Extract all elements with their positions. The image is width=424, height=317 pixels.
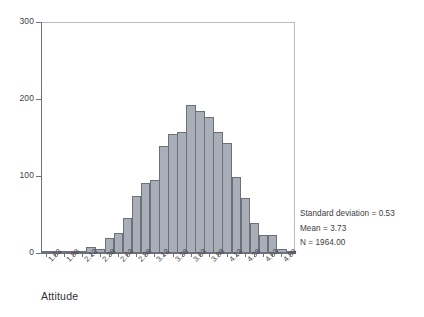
y-axis-tick	[36, 176, 42, 177]
x-axis-tick	[200, 253, 201, 257]
y-axis-line	[41, 22, 42, 254]
mean-text: Mean = 3.73	[300, 222, 424, 237]
x-axis-tick	[236, 253, 237, 257]
x-axis-tick	[272, 253, 273, 257]
y-axis-tick-label: 300	[0, 17, 34, 26]
x-axis-tick	[55, 253, 56, 257]
standard-deviation-text: Standard deviation = 0.53	[300, 207, 424, 222]
x-axis-tick	[218, 253, 219, 257]
histogram-chart: 0100200300 1.631.882.132.382.632.883.133…	[0, 0, 424, 317]
y-axis-tick	[36, 99, 42, 100]
y-axis-tick-label: 100	[0, 171, 34, 180]
statistics-annotation: Standard deviation = 0.53 Mean = 3.73 N …	[300, 207, 424, 251]
x-axis-tick	[290, 253, 291, 257]
y-axis-tick-label: 0	[0, 248, 34, 257]
y-axis-tick-label: 200	[0, 94, 34, 103]
x-axis-title: Attitude	[41, 290, 78, 302]
sample-size-text: N = 1964.00	[300, 236, 424, 251]
x-axis-tick	[182, 253, 183, 257]
x-axis-tick	[91, 253, 92, 257]
histogram-bars-group	[41, 22, 295, 253]
x-axis-tick	[109, 253, 110, 257]
x-axis-tick	[163, 253, 164, 257]
x-axis-tick	[127, 253, 128, 257]
x-axis-tick	[254, 253, 255, 257]
y-axis-tick	[36, 22, 42, 23]
x-axis-tick	[73, 253, 74, 257]
x-axis-tick	[145, 253, 146, 257]
